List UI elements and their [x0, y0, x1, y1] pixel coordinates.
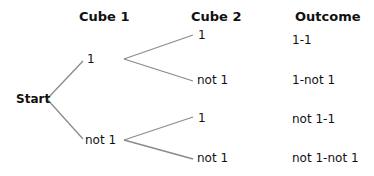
- header-cube-1: Cube 1: [79, 9, 130, 24]
- cube2-node-not1-1: 1: [198, 111, 206, 125]
- outcome-2: 1-not 1: [292, 73, 335, 87]
- cube1-node-not1: not 1: [85, 133, 116, 147]
- branch-1-to-1: [124, 35, 193, 59]
- branch-1-to-not1: [124, 59, 193, 81]
- branch-not1-to-not1: [124, 140, 193, 159]
- outcome-1: 1-1: [292, 33, 312, 47]
- branch-start-to-1: [47, 61, 83, 99]
- cube2-node-1-not1: not 1: [197, 73, 228, 87]
- header-outcome: Outcome: [295, 9, 361, 24]
- header-cube-2: Cube 2: [191, 9, 242, 24]
- branch-not1-to-1: [124, 117, 193, 140]
- cube2-node-not1-not1: not 1: [197, 151, 228, 165]
- cube2-node-1-1: 1: [198, 28, 206, 42]
- outcome-4: not 1-not 1: [292, 151, 359, 165]
- outcome-3: not 1-1: [292, 112, 335, 126]
- tree-branches: [0, 0, 374, 176]
- branch-start-to-not1: [47, 99, 83, 139]
- cube1-node-1: 1: [87, 52, 95, 66]
- start-label: Start: [16, 92, 50, 106]
